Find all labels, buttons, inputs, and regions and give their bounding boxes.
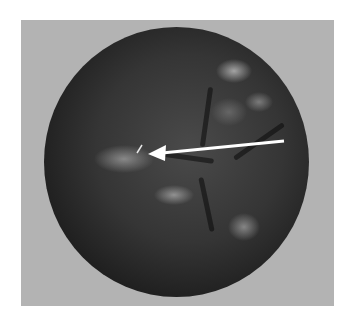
small-slash-marker xyxy=(137,145,142,153)
annotation-overlay xyxy=(0,0,352,320)
arrow-left-icon xyxy=(148,141,284,161)
